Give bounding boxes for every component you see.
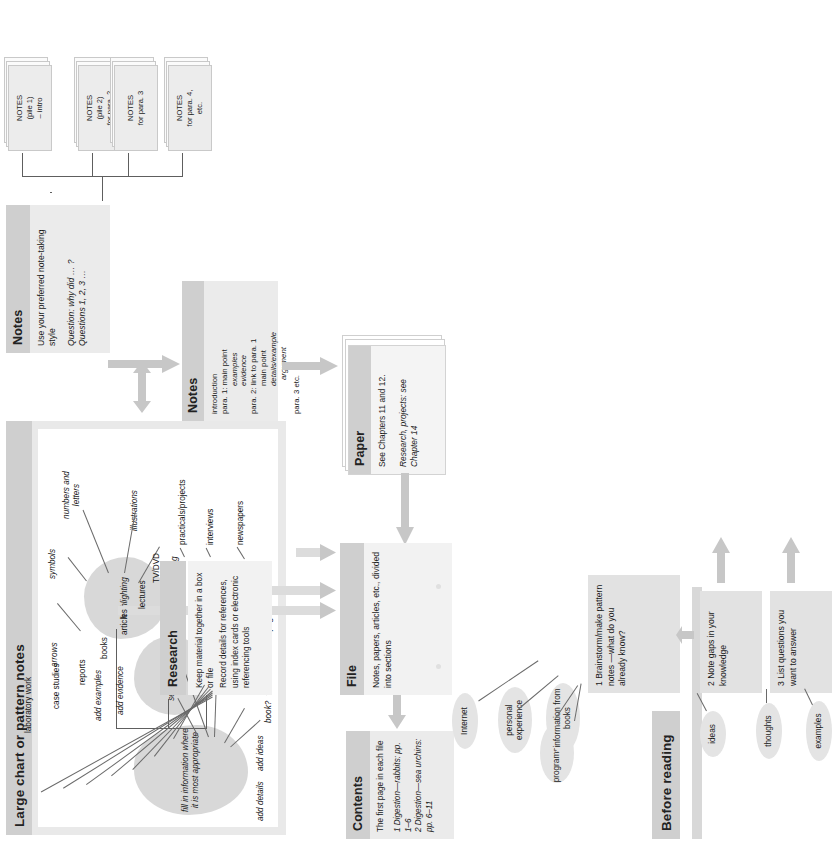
paper-heading: Paper xyxy=(349,346,371,474)
step-3-text: 3 List questions you want to answer xyxy=(776,610,798,686)
notes-top-body: Use your preferred note-taking style Que… xyxy=(30,205,94,353)
arrow-step-2-to-research xyxy=(712,537,734,583)
arrow-paper-to-file-head2 xyxy=(320,544,340,561)
contents-heading-text: Contents xyxy=(351,776,365,831)
notes-tree-branch-4 xyxy=(182,153,183,177)
paper-heading-text: Paper xyxy=(353,431,367,466)
paper-line-2: Research, projects: see Chapter 14 xyxy=(398,353,420,467)
pile-2-line1: NOTES xyxy=(85,95,95,121)
large-chart-heading: Large chart or pattern notes xyxy=(6,421,32,835)
notes-mid-line-4: evidence xyxy=(239,288,249,386)
notes-mid-line-5: para. 2: link to para. 1 xyxy=(249,288,259,414)
notes-mid-heading-text: Notes xyxy=(186,378,200,413)
paper-panel: Paper See Chapters 11 and 12. Research, … xyxy=(348,345,446,475)
source-books-text: books xyxy=(100,637,109,659)
label-numbers-letters-text: numbers and letters xyxy=(62,471,81,519)
pile-3-line1: NOTES xyxy=(126,95,136,121)
bubble-information-from-books-text: information from books xyxy=(553,683,573,753)
label-add-details: add details xyxy=(256,781,266,821)
file-body-text: Notes, papers, articles, etc., divided i… xyxy=(371,552,393,688)
source-newspapers-text: newspapers xyxy=(236,501,245,545)
file-heading-text: File xyxy=(345,665,359,687)
notes-top-line3: Questions 1, 2, 3 … xyxy=(77,212,88,346)
notes-mid-line-3: examples xyxy=(230,288,240,386)
pile-3-line2: for para. 3 xyxy=(136,91,146,126)
arrow-step-3-to-research xyxy=(782,537,804,583)
source-interviews: interviews xyxy=(206,509,216,545)
source-newspapers: newspapers xyxy=(236,501,246,545)
file-ring-hole xyxy=(436,584,441,589)
source-lectures-text: lectures xyxy=(138,580,147,609)
source-articles: articles xyxy=(120,609,130,635)
arrow-notes-to-notes-mid xyxy=(108,355,184,373)
connector-line xyxy=(224,708,245,743)
bubble-internet: Internet xyxy=(452,693,478,749)
contents-body: The first page in each file 1 Digestion—… xyxy=(370,731,442,839)
source-reports-text: reports xyxy=(78,660,87,685)
pile-4-line2: for para. 4, xyxy=(185,90,195,127)
cloud-fill-in-information: fill in information where it is most app… xyxy=(134,725,248,815)
pile-front: NOTES for para. 3 xyxy=(114,65,158,151)
label-add-details-text: add details xyxy=(256,781,265,821)
notes-mid-body: introduction para. 1: main point example… xyxy=(204,281,307,421)
research-line-1: Keep material together in a box or file xyxy=(194,568,216,688)
label-book-text: book? xyxy=(264,701,273,723)
notes-top-heading: Notes xyxy=(6,205,30,353)
notes-mid-line-7: details/example xyxy=(269,288,279,386)
paper-line-1: See Chapters 11 and 12. xyxy=(377,353,388,467)
paper-body: See Chapters 11 and 12. Research, projec… xyxy=(371,346,426,474)
notes-mid-panel: Notes introduction para. 1: main point e… xyxy=(182,281,278,421)
bubble-connector xyxy=(766,689,767,703)
contents-line-2: 1 Digestion—rabbits: pp. 1–6 xyxy=(393,738,415,832)
source-reports: reports xyxy=(78,660,88,685)
source-case-studies: case studies xyxy=(52,663,62,709)
source-tv-dvd-text: TV/DVD xyxy=(152,553,161,583)
notes-pile-4: NOTES for para. 4, etc. xyxy=(164,59,210,151)
pile-front: NOTES (pile 1) – intro xyxy=(8,65,52,151)
arrow-notes-top-to-file-head xyxy=(320,602,340,619)
contents-heading: Contents xyxy=(346,731,370,839)
label-symbols-text: symbols xyxy=(48,549,57,579)
pile-1-line1: NOTES xyxy=(15,95,25,121)
label-symbols: symbols xyxy=(48,549,58,579)
large-chart-heading-text: Large chart or pattern notes xyxy=(12,644,27,827)
notes-mid-line-6: main point xyxy=(259,288,269,386)
paper-stack: Paper See Chapters 11 and 12. Research, … xyxy=(342,335,448,475)
step-1-text: 1 Brainstorm/make pattern notes —what do… xyxy=(594,585,627,686)
source-books: books xyxy=(100,637,110,659)
contents-panel: Contents The first page in each file 1 D… xyxy=(346,731,454,839)
bubble-examples: examples xyxy=(806,701,832,761)
notes-tree-branch-3 xyxy=(128,153,129,177)
file-body: Notes, papers, articles, etc., divided i… xyxy=(364,543,400,695)
notes-tree-branch-2 xyxy=(92,153,93,177)
arrow-contents-to-file xyxy=(388,695,410,729)
notes-top-heading-text: Notes xyxy=(11,310,25,345)
notes-mid-line-1: introduction xyxy=(210,288,220,414)
contents-line-1: The first page in each file xyxy=(376,738,387,832)
notes-tree-branch-1 xyxy=(22,153,23,177)
bubble-internet-text: Internet xyxy=(460,707,470,735)
file-panel: File Notes, papers, articles, etc., divi… xyxy=(340,543,452,695)
label-add-examples-text: add examples xyxy=(94,670,103,721)
connector-line xyxy=(83,510,109,573)
pile-4-line3: etc. xyxy=(195,102,205,114)
research-heading: Research xyxy=(160,561,186,695)
step-3-box: 3 List questions you want to answer xyxy=(770,591,832,693)
notes-top-line1: Use your preferred note-taking style xyxy=(36,212,59,346)
arrow-research-to-file-head xyxy=(320,582,340,599)
cloud-1-text: fill in information where it is most app… xyxy=(181,728,202,812)
source-laboratory-work: laboratory work xyxy=(24,677,34,733)
notes-top-line2: Question: why did … ? xyxy=(66,212,77,346)
notes-mid-line-9: para. 3 etc. xyxy=(292,288,302,414)
notes-pile-1: NOTES (pile 1) – intro xyxy=(4,59,50,151)
label-add-evidence: add evidence xyxy=(116,666,126,715)
bubble-personal-experience: personal experience xyxy=(498,687,532,753)
source-articles-text: articles xyxy=(120,609,129,635)
pile-front: NOTES for para. 4, etc. xyxy=(168,65,212,151)
pile-4-line1: NOTES xyxy=(175,95,185,121)
bubble-thoughts: thoughts xyxy=(756,703,782,759)
pile-1-line2: (pile 1) xyxy=(25,96,35,119)
